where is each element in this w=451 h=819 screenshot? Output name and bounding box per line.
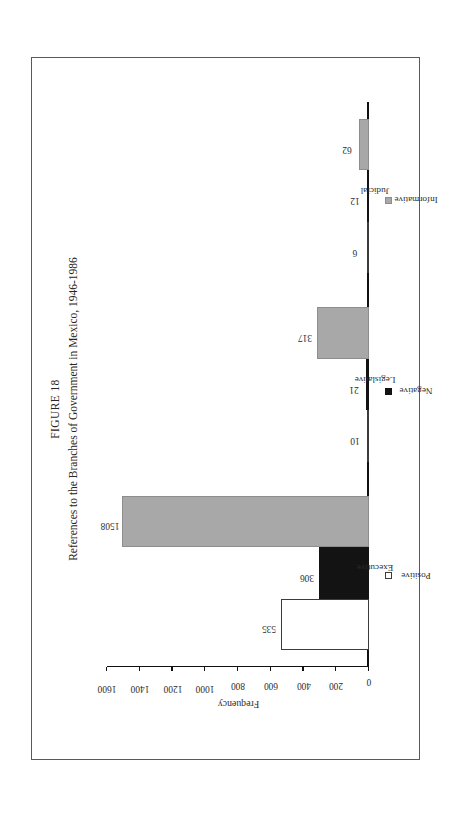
y-tick — [367, 667, 368, 672]
y-tick-label: 1200 — [163, 683, 182, 693]
y-tick — [138, 667, 139, 672]
bar-value-label: 12 — [350, 196, 359, 206]
y-tick — [335, 667, 336, 672]
plot-area: 02004006008001000120014001600 5353061508… — [107, 102, 369, 667]
y-tick — [171, 667, 172, 672]
bar-value-label: 21 — [348, 384, 357, 394]
figure-title-block: FIGURE 18 References to the Branches of … — [47, 59, 82, 759]
y-tick-label: 1600 — [97, 683, 116, 693]
y-tick-label: 1400 — [130, 683, 149, 693]
chart-legend: PositiveNegativeInformative — [385, 102, 421, 667]
y-tick-label: 0 — [366, 676, 371, 686]
bar-judicial-informative: 62 — [358, 118, 368, 169]
page-frame: FIGURE 18 References to the Branches of … — [31, 57, 420, 760]
figure-caption: References to the Branches of Government… — [64, 59, 82, 759]
y-tick — [236, 667, 237, 672]
bar-group-judicial: 61262Judicial — [107, 102, 369, 290]
legend-item-informative: Informative — [385, 178, 421, 221]
y-tick-label: 1000 — [195, 683, 214, 693]
y-tick — [105, 667, 106, 672]
legend-swatch-informative — [385, 196, 392, 203]
bar-value-label: 535 — [262, 624, 276, 634]
figure-rotated-stage: FIGURE 18 References to the Branches of … — [33, 59, 419, 759]
bar-judicial-positive: 6 — [367, 221, 369, 272]
y-axis-title-label: Frequency — [217, 698, 258, 709]
legend-label-positive: Positive — [401, 570, 431, 580]
bar-legislative-informative: 317 — [317, 307, 369, 358]
legend-swatch-positive — [385, 572, 392, 579]
y-tick — [269, 667, 270, 672]
bar-group-executive: 5353061508Executive — [107, 478, 369, 666]
bar-value-label: 6 — [352, 247, 357, 257]
legend-item-positive: Positive — [385, 560, 421, 590]
legend-label-negative: Negative — [399, 386, 432, 396]
y-tick-label: 200 — [329, 681, 343, 691]
bar-legislative-positive: 10 — [367, 410, 369, 461]
bar-value-label: 10 — [350, 436, 359, 446]
y-tick-label: 400 — [296, 681, 310, 691]
bar-value-label: 306 — [299, 572, 313, 582]
bar-value-label: 62 — [342, 144, 351, 154]
bar-group-legislative: 1021317Legislative — [107, 290, 369, 478]
bar-executive-informative: 1508 — [122, 495, 369, 546]
y-tick — [302, 667, 303, 672]
legend-item-negative: Negative — [385, 374, 421, 407]
y-tick-label: 800 — [230, 681, 244, 691]
legend-label-informative: Informative — [394, 195, 437, 205]
legend-swatch-negative — [385, 387, 392, 394]
figure-number: FIGURE 18 — [47, 59, 64, 759]
y-tick — [204, 667, 205, 672]
bar-executive-positive: 535 — [281, 598, 369, 649]
y-tick-label: 600 — [263, 681, 277, 691]
bar-value-label: 317 — [298, 333, 312, 343]
bar-value-label: 1508 — [100, 521, 119, 531]
